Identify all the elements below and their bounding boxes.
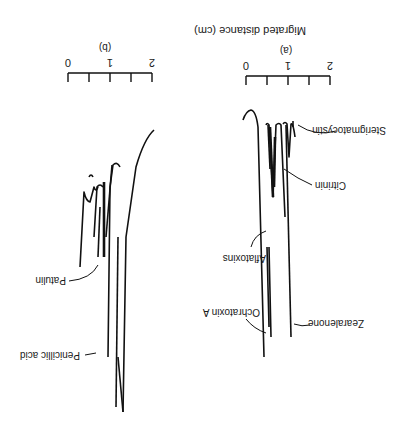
peak-label-patulin: Patulin bbox=[35, 275, 66, 286]
chromatogram-figure: Migrated distance (cm) (a) 2 1 0 (b) 2 1… bbox=[0, 0, 416, 437]
trace-a bbox=[243, 110, 295, 357]
tick-label: 2 bbox=[327, 60, 333, 72]
trace-b bbox=[80, 130, 154, 412]
panel-a-label: (a) bbox=[280, 45, 292, 56]
panel-b-label: (b) bbox=[99, 42, 111, 53]
peak-label-ochratoxin-a: Ochratoxin A bbox=[202, 307, 260, 318]
annotations-a: Sterigmatocystin Citrinin Aflatoxins Och… bbox=[202, 125, 386, 333]
tick-label: 1 bbox=[107, 57, 113, 69]
peak-label-penicillic-acid: Penicillic acid bbox=[20, 350, 80, 361]
axis-title: Migrated distance (cm) bbox=[194, 25, 306, 37]
tick-label: 2 bbox=[149, 57, 155, 69]
annotations-b: Patulin Penicillic acid bbox=[20, 265, 98, 361]
panel-b-axis: 2 1 0 bbox=[65, 57, 155, 82]
tick-label: 0 bbox=[65, 57, 71, 69]
peak-label-aflatoxins: Aflatoxins bbox=[223, 253, 266, 264]
peak-label-zearalenone: Zearalenone bbox=[307, 318, 364, 329]
tick-label: 1 bbox=[285, 60, 291, 72]
peak-label-citrinin: Citrinin bbox=[315, 180, 346, 191]
peak-label-sterigmatocystin: Sterigmatocystin bbox=[312, 125, 386, 136]
tick-label: 0 bbox=[243, 60, 249, 72]
panel-a-axis: 2 1 0 bbox=[243, 60, 333, 85]
